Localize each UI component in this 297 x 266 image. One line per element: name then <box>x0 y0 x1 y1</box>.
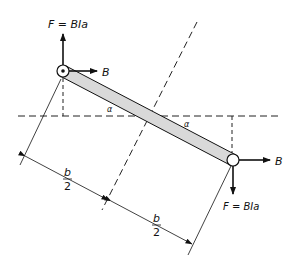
fraction-denominator: 2 <box>153 226 160 239</box>
angle-label-left: α <box>107 105 113 114</box>
current-out-dot-icon <box>61 69 65 73</box>
field-label-bottom: B <box>275 155 283 168</box>
extension-line-left <box>20 79 61 165</box>
field-label-top: B <box>102 66 110 79</box>
fraction-denominator: 2 <box>64 180 71 193</box>
dimension-label-left: b 2 <box>63 166 72 193</box>
loop-force-diagram: F = BIa B F = BIa B α α b 2 b 2 <box>0 0 297 266</box>
dimension-label-right: b 2 <box>152 212 161 239</box>
force-label-top: F = BIa <box>48 18 88 31</box>
angle-label-right: α <box>184 120 190 129</box>
dimension-line-right <box>111 201 192 244</box>
force-label-bottom: F = BIa <box>223 201 259 212</box>
conductor-bottom <box>227 154 239 166</box>
fraction-numerator: b <box>153 212 160 225</box>
fraction-numerator: b <box>64 166 71 179</box>
